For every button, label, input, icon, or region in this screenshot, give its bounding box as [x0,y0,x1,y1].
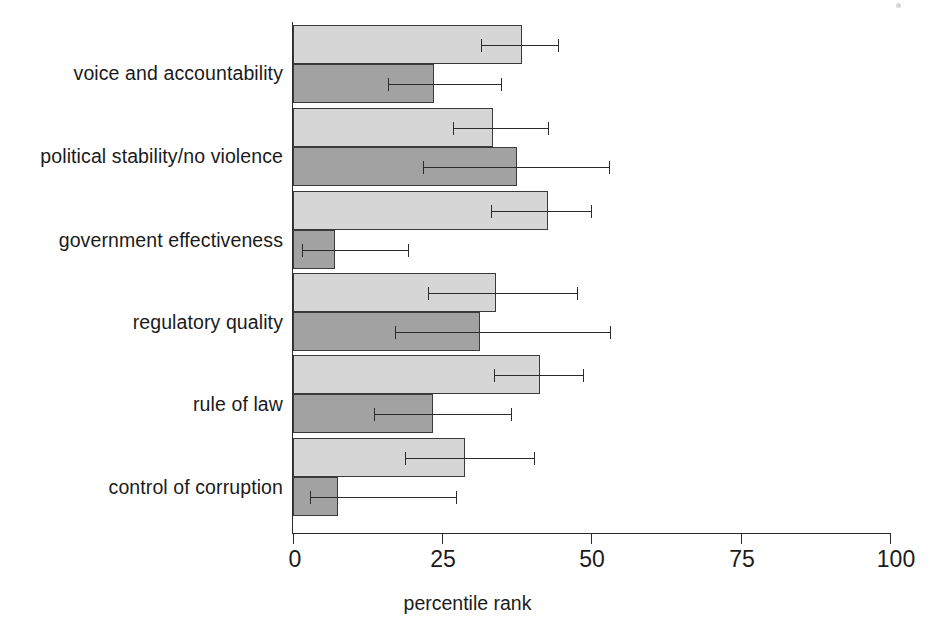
error-bar-cap-low [491,205,492,218]
error-bar-cap-high [583,369,584,382]
category-label-government-effectiveness: government effectiveness [59,229,283,252]
error-bar-line [491,211,592,212]
error-bar-line [395,332,611,333]
x-tick-50 [591,533,592,544]
x-tick-label-100: 100 [877,546,915,573]
error-bar-line [405,458,535,459]
error-bar-cap-low [395,326,396,339]
error-bar-cap-low [302,244,303,257]
error-bar-cap-low [494,369,495,382]
error-bar-line [310,497,457,498]
error-bar-cap-low [310,491,311,504]
error-bar-cap-low [405,452,406,465]
x-axis-label: percentile rank [0,592,935,615]
error-bar-cap-high [558,39,559,52]
error-bar-cap-low [423,161,424,174]
x-tick-75 [741,533,742,544]
error-bar-line [481,45,559,46]
x-tick-label-75: 75 [729,546,755,573]
error-bar-cap-high [609,161,610,174]
scan-speck [896,3,901,8]
error-bar-cap-high [501,78,502,91]
category-label-rule-of-law: rule of law [193,393,283,416]
y-axis-line [292,22,293,534]
error-bar-cap-high [408,244,409,257]
error-bar-line [453,128,549,129]
error-bar-line [423,167,610,168]
plot-area [293,24,891,533]
category-label-voice-and-accountability: voice and accountability [74,62,283,85]
x-tick-0 [293,533,294,544]
error-bar-line [428,293,579,294]
error-bar-cap-low [388,78,389,91]
error-bar-cap-high [577,287,578,300]
error-bar-cap-high [591,205,592,218]
error-bar-line [374,414,512,415]
x-tick-25 [442,533,443,544]
category-label-control-of-corruption: control of corruption [109,476,283,499]
x-tick-label-0: 0 [289,546,302,573]
x-tick-label-50: 50 [579,546,605,573]
error-bar-cap-high [548,122,549,135]
category-label-regulatory-quality: regulatory quality [133,311,283,334]
error-bar-cap-low [453,122,454,135]
error-bar-line [302,250,409,251]
error-bar-cap-high [534,452,535,465]
error-bar-cap-high [511,408,512,421]
error-bar-cap-low [481,39,482,52]
x-tick-100 [890,533,891,544]
error-bar-cap-low [374,408,375,421]
error-bar-line [494,375,583,376]
error-bar-line [388,84,502,85]
error-bar-cap-low [428,287,429,300]
error-bar-cap-high [456,491,457,504]
percentile-rank-bar-chart: voice and accountability political stabi… [0,0,935,632]
category-label-political-stability: political stability/no violence [40,145,283,168]
x-tick-label-25: 25 [430,546,456,573]
error-bar-cap-high [610,326,611,339]
